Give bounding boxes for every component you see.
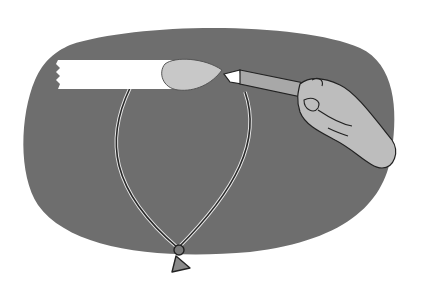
tape-strip bbox=[56, 60, 172, 89]
illustration bbox=[0, 0, 424, 286]
balloon-glue-illustration bbox=[0, 0, 424, 286]
